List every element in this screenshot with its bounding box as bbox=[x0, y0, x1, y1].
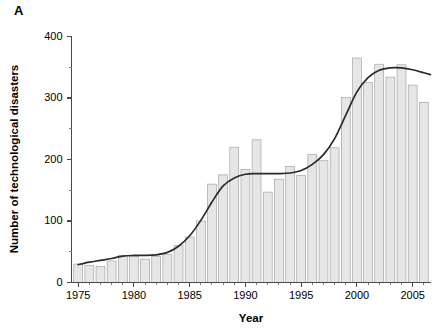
x-tick-label-1985: 1985 bbox=[177, 289, 201, 301]
bar-1986 bbox=[196, 221, 205, 283]
bar-2006 bbox=[419, 102, 428, 282]
y-tick-label-0: 0 bbox=[56, 276, 62, 288]
x-tick-label-2005: 2005 bbox=[400, 289, 424, 301]
bars-group bbox=[74, 58, 429, 282]
bar-1995 bbox=[297, 175, 306, 282]
bar-1983 bbox=[163, 254, 172, 282]
bar-1991 bbox=[252, 140, 261, 283]
bar-1982 bbox=[152, 257, 161, 283]
y-tick-label-400: 400 bbox=[44, 30, 62, 42]
bar-1984 bbox=[174, 246, 183, 283]
bar-1996 bbox=[308, 155, 317, 283]
bar-1992 bbox=[263, 192, 272, 282]
bar-2003 bbox=[386, 77, 395, 282]
x-tick-group: 1975198019851990199520002005 bbox=[66, 283, 425, 301]
y-tick-group: 0100200300400 bbox=[44, 30, 71, 288]
bar-1977 bbox=[96, 267, 105, 283]
bar-1989 bbox=[230, 147, 239, 282]
bar-1999 bbox=[341, 97, 350, 282]
bar-1975 bbox=[74, 264, 83, 282]
bar-1993 bbox=[274, 179, 283, 282]
bar-1976 bbox=[85, 265, 94, 282]
bar-2005 bbox=[408, 85, 417, 282]
bar-1979 bbox=[118, 255, 127, 282]
bar-1987 bbox=[208, 184, 217, 282]
bar-1997 bbox=[319, 161, 328, 283]
bar-1998 bbox=[330, 148, 339, 283]
bar-2002 bbox=[375, 64, 384, 282]
bar-1990 bbox=[241, 169, 250, 282]
y-tick-label-300: 300 bbox=[44, 91, 62, 103]
bar-1985 bbox=[185, 237, 194, 283]
bar-1981 bbox=[141, 259, 150, 282]
bar-1978 bbox=[107, 261, 116, 283]
bar-2004 bbox=[397, 65, 406, 283]
bar-1980 bbox=[129, 257, 138, 283]
y-tick-label-200: 200 bbox=[44, 153, 62, 165]
x-tick-label-1995: 1995 bbox=[289, 289, 313, 301]
x-tick-label-1980: 1980 bbox=[122, 289, 146, 301]
x-tick-label-2000: 2000 bbox=[345, 289, 369, 301]
x-axis-title: Year bbox=[239, 312, 264, 324]
bar-2001 bbox=[364, 83, 373, 283]
y-tick-label-100: 100 bbox=[44, 214, 62, 226]
figure-container: A 0100200300400 197519801985199019952000… bbox=[0, 0, 441, 330]
x-tick-label-1975: 1975 bbox=[66, 289, 90, 301]
y-axis-title: Number of technological disasters bbox=[8, 65, 20, 254]
bar-1994 bbox=[286, 166, 295, 282]
x-tick-label-1990: 1990 bbox=[233, 289, 257, 301]
chart-plot: 0100200300400 19751980198519901995200020… bbox=[0, 0, 441, 330]
